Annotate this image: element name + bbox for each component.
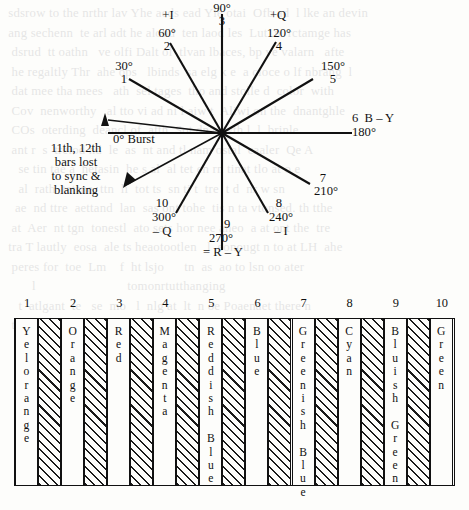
vector-label-8-axis: – I bbox=[260, 225, 302, 238]
vector-phase-diagram: 30° 1 +I 60° 2 90° 3 +Q 120° 4 150° 5 6 … bbox=[0, 0, 469, 290]
color-bar-3: R e d bbox=[107, 319, 130, 485]
vector-line-8 bbox=[222, 133, 268, 213]
color-bar-number-8: 8 bbox=[337, 296, 363, 311]
color-bar-label-8: C y a n bbox=[339, 325, 360, 379]
color-bar-label-3: R e d bbox=[108, 325, 129, 365]
vector-label-9-number: 9 bbox=[224, 218, 250, 231]
color-bar-1: Y e l o r a n g e bbox=[15, 319, 38, 485]
vector-label-5-number: 5 bbox=[310, 73, 356, 86]
vector-label-2-number: 2 bbox=[145, 40, 189, 53]
color-bar-label-6: B l u e bbox=[246, 325, 267, 379]
color-bar-number-6: 6 bbox=[245, 296, 271, 311]
color-bar-number-9: 9 bbox=[383, 296, 409, 311]
vector-label-1-number: 1 bbox=[104, 73, 144, 86]
vector-label-7-angle: 210° bbox=[303, 185, 349, 198]
color-bar-separator-7.5 bbox=[315, 319, 338, 485]
note-line-4: blanking bbox=[30, 183, 122, 197]
color-bar-number-7: 7 bbox=[291, 296, 317, 311]
color-bar-number-5: 5 bbox=[198, 296, 224, 311]
vector-label-10-number: 10 bbox=[146, 197, 178, 210]
vector-line-4 bbox=[222, 42, 276, 133]
color-bar-number-3: 3 bbox=[106, 296, 132, 311]
color-bar-6: B l u e bbox=[245, 319, 268, 485]
color-bar-separator-8.5 bbox=[361, 319, 384, 485]
color-bar-label-9: B l u i s h G r e e n bbox=[385, 325, 406, 486]
diagram-center-point bbox=[219, 130, 224, 135]
vector-line-5 bbox=[222, 79, 313, 133]
color-bar-separator-2.5 bbox=[84, 319, 107, 485]
color-bar-4: M a g e n t a bbox=[153, 319, 176, 485]
vector-label-8-angle: 240° bbox=[258, 211, 304, 224]
color-bar-label-5: R e d d i s h B l u e bbox=[200, 325, 221, 486]
color-bar-separator-9.5 bbox=[407, 319, 430, 485]
note-line-1: 11th, 12th bbox=[30, 141, 122, 155]
color-bar-number-1: 1 bbox=[14, 296, 40, 311]
vector-label-10-angle: 300° bbox=[140, 211, 188, 224]
color-bar-label-1: Y e l o r a n g e bbox=[16, 325, 37, 446]
color-bar-separator-1.5 bbox=[38, 319, 61, 485]
color-bar-label-2: O r a n g e bbox=[62, 325, 83, 405]
vector-line-1 bbox=[129, 79, 222, 133]
color-bar-label-7: G r e e n i s h B l u e bbox=[293, 325, 314, 499]
color-bar-2: O r a n g e bbox=[61, 319, 84, 485]
color-bar-label-4: M a g e n t a bbox=[154, 325, 175, 419]
vector-label-8-number: 8 bbox=[264, 197, 294, 210]
color-bar-9: B l u i s h G r e e n bbox=[384, 319, 407, 485]
note-line-3: to sync & bbox=[30, 169, 122, 183]
arrowhead-downleft-12th bbox=[123, 172, 136, 188]
color-bar-chart: Y e l o r a n g eO r a n g eR e dM a g e… bbox=[0, 290, 469, 510]
vector-label-3-number: 3 bbox=[200, 15, 244, 28]
vector-line-2 bbox=[170, 43, 222, 133]
burst-label: 0° Burst bbox=[113, 133, 187, 146]
bar-chart-frame: Y e l o r a n g eO r a n g eR e dM a g e… bbox=[14, 318, 455, 486]
color-bar-7: G r e e n i s h B l u e bbox=[292, 319, 315, 485]
color-bar-number-10: 10 bbox=[429, 296, 455, 311]
color-bar-separator-4.5 bbox=[176, 319, 199, 485]
color-bar-number-4: 4 bbox=[152, 296, 178, 311]
color-bar-label-10: G r e e n bbox=[431, 325, 452, 392]
vector-line-7 bbox=[222, 133, 310, 184]
vector-label-4-number: 4 bbox=[256, 40, 302, 53]
vector-label-10-axis: – Q bbox=[140, 225, 184, 238]
vector-label-4-axis: +Q bbox=[258, 9, 298, 22]
color-bar-separator-5.5 bbox=[222, 319, 245, 485]
color-bar-number-2: 2 bbox=[60, 296, 86, 311]
color-bar-separator-3.5 bbox=[130, 319, 153, 485]
vector-label-6-axis: 6 B – Y bbox=[352, 112, 422, 125]
figure-root: sdsrow to the nrthr lav Yhe aeds ead Yle… bbox=[0, 0, 469, 510]
arrowhead-up-11th bbox=[101, 113, 109, 126]
vector-label-9-angle: 270° bbox=[196, 232, 246, 245]
color-bar-5: R e d d i s h B l u e bbox=[199, 319, 222, 485]
color-bar-separator-6.5 bbox=[268, 319, 291, 485]
vector-label-2-axis: +I bbox=[148, 9, 188, 22]
color-bar-10: G r e e n bbox=[430, 319, 453, 485]
color-bar-8: C y a n bbox=[338, 319, 361, 485]
note-line-2: bars lost bbox=[30, 155, 122, 169]
vector-label-9-axis: = R – Y bbox=[194, 246, 252, 259]
vector-label-6-angle: 180° bbox=[352, 126, 422, 139]
